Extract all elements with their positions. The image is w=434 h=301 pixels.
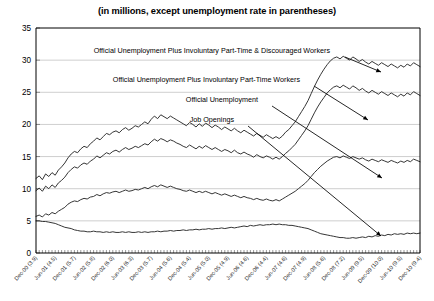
leader-line-u6-part-time [314, 86, 368, 120]
arrowhead-official-unemployment [377, 174, 382, 178]
annotation-job-openings: Job Openings [190, 115, 235, 124]
y-tick-label: 15 [22, 153, 32, 162]
y-tick-label: 5 [26, 217, 31, 226]
series-line-3 [36, 221, 420, 238]
y-tick-label: 20 [22, 120, 32, 129]
y-axis-labels: 05101520253035 [22, 24, 32, 258]
leader-line-u6-plus-discouraged [345, 57, 381, 72]
annotation-u6-plus-discouraged: Official Unemployment Plus Involuntary P… [94, 46, 331, 55]
x-axis-labels: Dec-00 (3.9)Jun-01 (4.5)Dec-01 (5.7)Jun-… [13, 255, 422, 285]
y-tick-label: 30 [22, 56, 32, 65]
annotation-official-unemployment: Official Unemployment [186, 95, 258, 104]
annotation-labels: Official Unemployment Plus Involuntary P… [94, 46, 331, 124]
annotation-u6-part-time: Official Unemployment Plus Involuntary P… [113, 75, 301, 84]
arrowhead-u6-part-time [363, 116, 368, 120]
y-tick-label: 25 [22, 88, 32, 97]
chart-plot-area: 05101520253035 Official Unemployment Plu… [0, 0, 434, 301]
y-tick-label: 10 [22, 185, 32, 194]
y-tick-label: 35 [22, 24, 32, 33]
leader-line-job-openings [248, 126, 381, 236]
unemployment-chart: (in millions, except unemployment rate i… [0, 0, 434, 301]
